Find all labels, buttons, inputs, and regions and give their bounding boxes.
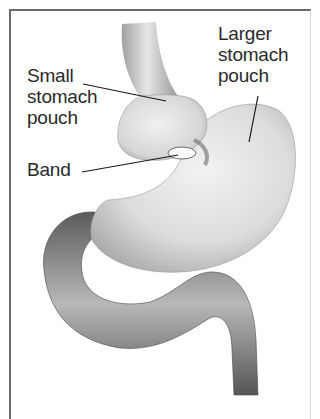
band-leader: [82, 155, 178, 172]
larger-pouch-label: Larger stomach pouch: [218, 23, 288, 86]
esophagus: [122, 22, 178, 100]
gastric-band: [168, 147, 196, 159]
small-pouch-label: Small stomach pouch: [27, 65, 97, 128]
band-label: Band: [27, 159, 71, 180]
